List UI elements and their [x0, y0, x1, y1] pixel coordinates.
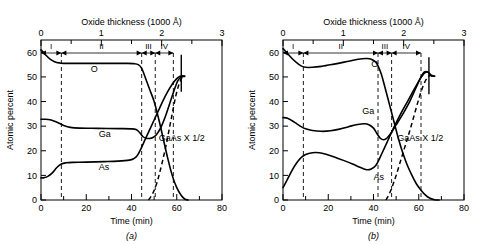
x-top-tick-label: 3 — [461, 28, 466, 38]
x-top-axis-title: Oxide thickness (1000 Å) — [81, 17, 182, 27]
y-tick-label: 0 — [32, 195, 37, 205]
x-tick-label: 40 — [126, 203, 136, 213]
x-tick-label: 60 — [172, 203, 182, 213]
y-tick-label: 0 — [274, 195, 279, 205]
data-curve-As — [41, 76, 185, 178]
region-label: III — [145, 42, 152, 51]
y-tick-label: 10 — [27, 171, 37, 181]
y-tick-label: 60 — [27, 48, 37, 58]
y-tick-label: 10 — [269, 171, 279, 181]
data-curve-Ga — [283, 71, 435, 139]
y-tick-label: 40 — [269, 97, 279, 107]
region-arrow-left — [61, 50, 66, 55]
region-arrow-left — [392, 50, 397, 55]
data-curve-As — [283, 72, 435, 188]
region-arrow-right — [416, 50, 421, 55]
curve-label-GaAs: GaAs X 1/2 — [397, 133, 443, 143]
region-arrow-left — [303, 50, 308, 55]
x-top-tick-label: 3 — [219, 28, 224, 38]
curve-label-O: O — [91, 64, 98, 74]
region-label: II — [338, 42, 342, 51]
x-tick-label: 0 — [280, 203, 285, 213]
y-tick-label: 20 — [27, 146, 37, 156]
region-label: IV — [403, 42, 411, 51]
y-tick-label: 30 — [27, 121, 37, 131]
curve-label-GaAs: GaAs X 1/2 — [159, 133, 205, 143]
region-arrow-right — [168, 50, 173, 55]
region-arrow-right — [150, 50, 155, 55]
x-top-tick-label: 2 — [159, 28, 164, 38]
region-arrow-left — [155, 50, 160, 55]
curve-label-As: As — [374, 172, 385, 182]
x-top-tick-label: 0 — [38, 28, 43, 38]
x-tick-label: 80 — [217, 203, 227, 213]
region-arrow-right — [56, 50, 61, 55]
region-arrow-right — [298, 50, 303, 55]
region-arrow-left — [378, 50, 383, 55]
x-tick-label: 60 — [414, 203, 424, 213]
panel-caption: (a) — [126, 231, 137, 241]
region-arrow-right — [373, 50, 378, 55]
region-arrow-right — [137, 50, 142, 55]
figure-container: 020406080Time (min)0123Oxide thickness (… — [0, 0, 485, 245]
curve-label-As: As — [99, 162, 110, 172]
x-axis-title: Time (min) — [352, 216, 395, 226]
region-label: I — [50, 42, 52, 51]
curve-label-Ga: Ga — [362, 106, 374, 116]
plot-panel-b: 020406080Time (min)0123Oxide thickness (… — [242, 0, 485, 245]
region-label: II — [99, 42, 103, 51]
y-tick-label: 60 — [269, 48, 279, 58]
y-tick-label: 50 — [269, 72, 279, 82]
region-arrow-right — [387, 50, 392, 55]
region-label: I — [292, 42, 294, 51]
region-label: III — [381, 42, 388, 51]
y-tick-label: 30 — [269, 121, 279, 131]
x-tick-label: 40 — [368, 203, 378, 213]
x-top-tick-label: 2 — [401, 28, 406, 38]
x-top-axis-title: Oxide thickness (1000 Å) — [323, 17, 424, 27]
x-axis-title: Time (min) — [110, 216, 153, 226]
data-curve-Ga — [41, 76, 185, 138]
y-axis-title: Atomic percent — [247, 89, 257, 150]
x-top-tick-label: 1 — [341, 28, 346, 38]
x-tick-label: 20 — [323, 203, 333, 213]
region-label: IV — [161, 42, 169, 51]
y-axis-title: Atomic percent — [5, 89, 15, 150]
panel-caption: (b) — [368, 231, 379, 241]
plot-panel-a: 020406080Time (min)0123Oxide thickness (… — [0, 0, 243, 245]
x-tick-label: 80 — [459, 203, 469, 213]
x-tick-label: 0 — [38, 203, 43, 213]
x-tick-label: 20 — [81, 203, 91, 213]
x-top-tick-label: 1 — [99, 28, 104, 38]
x-top-tick-label: 0 — [280, 28, 285, 38]
curve-label-Ga: Ga — [99, 129, 111, 139]
curve-label-O: O — [371, 59, 378, 69]
y-tick-label: 40 — [27, 97, 37, 107]
y-tick-label: 50 — [27, 72, 37, 82]
region-arrow-left — [142, 50, 147, 55]
y-tick-label: 20 — [269, 146, 279, 156]
